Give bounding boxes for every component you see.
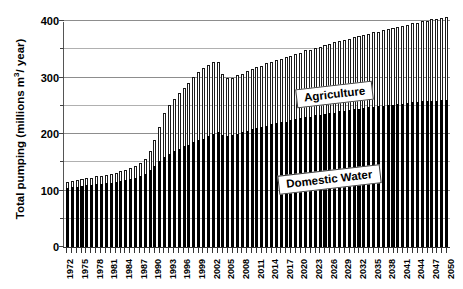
stacked-bar	[440, 18, 443, 247]
y-axis-tick	[59, 20, 64, 21]
stacked-bar	[319, 47, 322, 247]
stacked-bar	[299, 53, 302, 247]
x-axis-tick	[300, 248, 301, 253]
bar-segment-agriculture	[426, 21, 429, 101]
bar-segment-agriculture	[139, 163, 142, 175]
bar-segment-domestic-water	[270, 124, 273, 247]
bar-segment-agriculture	[192, 77, 195, 143]
stacked-bar	[333, 42, 336, 247]
x-axis-tick	[251, 248, 252, 253]
bar-segment-domestic-water	[401, 104, 404, 248]
x-axis-tick	[246, 248, 247, 253]
stacked-bar	[139, 163, 142, 247]
bar-segment-domestic-water	[187, 145, 190, 247]
x-axis-tick	[344, 248, 345, 253]
bar-segment-agriculture	[265, 63, 268, 125]
x-axis-tick	[285, 248, 286, 253]
bar-segment-domestic-water	[149, 170, 152, 247]
bar-segment-agriculture	[144, 159, 147, 174]
bar-segment-agriculture	[294, 54, 297, 120]
y-axis-tick-label: 300	[19, 73, 59, 84]
y-axis-tick-label: 100	[19, 186, 59, 197]
x-axis-tick	[227, 248, 228, 253]
x-axis-tick	[422, 248, 423, 253]
gridline-major	[64, 20, 450, 21]
x-axis-tick	[95, 248, 96, 253]
bar-segment-domestic-water	[163, 157, 166, 247]
bar-segment-agriculture	[105, 175, 108, 183]
x-axis-tick	[349, 248, 350, 253]
bar-segment-domestic-water	[396, 104, 399, 247]
bar-segment-domestic-water	[251, 129, 254, 247]
bar-segment-domestic-water	[115, 182, 118, 247]
bar-segment-agriculture	[255, 67, 258, 128]
bar-segment-domestic-water	[66, 188, 69, 247]
stacked-bar	[183, 88, 186, 247]
x-axis-tick	[310, 248, 311, 253]
bar-segment-agriculture	[183, 88, 186, 147]
x-axis-tick	[378, 248, 379, 253]
bar-segment-agriculture	[387, 29, 390, 105]
bar-segment-agriculture	[178, 93, 181, 148]
stacked-bar	[367, 34, 370, 247]
bar-segment-domestic-water	[440, 100, 443, 247]
bar-segment-agriculture	[270, 62, 273, 124]
stacked-bar	[115, 173, 118, 247]
bar-segment-agriculture	[241, 74, 244, 133]
bar-segment-domestic-water	[387, 105, 390, 247]
bar-segment-agriculture	[124, 170, 127, 180]
bar-segment-agriculture	[80, 179, 83, 186]
x-axis-tick	[159, 248, 160, 253]
bar-segment-domestic-water	[226, 136, 229, 247]
x-axis-tick	[183, 248, 184, 253]
bar-segment-agriculture	[110, 174, 113, 182]
bar-segment-agriculture	[221, 74, 224, 135]
bar-segment-domestic-water	[241, 132, 244, 247]
x-axis-tick	[217, 248, 218, 253]
stacked-bar	[149, 151, 152, 247]
stacked-bar	[129, 168, 132, 247]
stacked-bar	[168, 105, 171, 247]
x-axis-tick	[324, 248, 325, 253]
x-axis-tick	[402, 248, 403, 253]
x-axis-tick	[163, 248, 164, 253]
bar-segment-domestic-water	[90, 185, 93, 247]
x-axis-tick	[305, 248, 306, 253]
stacked-bar	[362, 35, 365, 247]
bar-segment-agriculture	[226, 78, 229, 137]
bar-segment-agriculture	[236, 75, 239, 134]
bar-segment-domestic-water	[207, 136, 210, 247]
x-axis-tick	[441, 248, 442, 253]
bar-segment-agriculture	[430, 19, 433, 100]
x-axis-tick	[334, 248, 335, 253]
stacked-bar	[406, 25, 409, 247]
x-axis-tick	[373, 248, 374, 253]
bar-segment-agriculture	[251, 69, 254, 129]
chart-figure: Total pumping (millions m3/ year) 197219…	[0, 0, 463, 289]
stacked-bar	[80, 179, 83, 247]
stacked-bar	[260, 66, 263, 247]
stacked-bar	[246, 71, 249, 247]
stacked-bar	[411, 23, 414, 247]
stacked-bar	[357, 36, 360, 247]
x-axis-tick	[173, 248, 174, 253]
bar-segment-domestic-water	[134, 178, 137, 247]
bar-segment-domestic-water	[183, 146, 186, 247]
x-axis-tick	[368, 248, 369, 253]
bar-segment-agriculture	[411, 23, 414, 102]
x-axis-tick	[222, 248, 223, 253]
bar-segment-domestic-water	[445, 100, 448, 247]
bar-segment-domestic-water	[110, 183, 113, 247]
bar-segment-agriculture	[280, 59, 283, 122]
x-axis-tick	[266, 248, 267, 253]
bar-segment-domestic-water	[178, 149, 181, 247]
y-axis-title-pre: Total pumping (millions m	[14, 77, 26, 219]
stacked-bar	[173, 99, 176, 247]
x-axis-tick	[432, 248, 433, 253]
stacked-bar	[212, 62, 215, 247]
y-axis-tick-label: 0	[19, 242, 59, 253]
x-axis-tick	[393, 248, 394, 253]
stacked-bar	[192, 77, 195, 247]
bar-segment-domestic-water	[246, 131, 249, 247]
x-axis-tick	[329, 248, 330, 253]
